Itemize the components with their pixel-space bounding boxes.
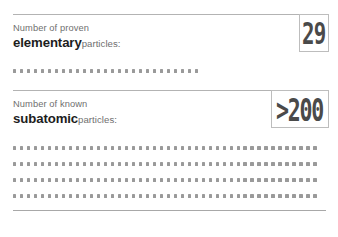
dot: [306, 178, 309, 181]
dot: [55, 178, 58, 181]
dot: [62, 162, 65, 165]
dot: [104, 146, 107, 149]
dot: [264, 178, 267, 181]
dot: [118, 146, 121, 149]
dot: [167, 194, 170, 197]
dot: [62, 69, 65, 72]
dot: [271, 162, 274, 165]
dot: [76, 146, 79, 149]
dot: [292, 194, 295, 197]
value-subatomic: >200: [276, 93, 323, 125]
dot: [139, 162, 142, 165]
dot: [306, 146, 309, 149]
dot: [62, 146, 65, 149]
dot: [76, 69, 79, 72]
dot: [202, 178, 205, 181]
dot: [34, 162, 37, 165]
dot: [62, 194, 65, 197]
dot: [55, 69, 58, 72]
dot: [132, 178, 135, 181]
dot: [41, 162, 44, 165]
dot: [195, 162, 198, 165]
dot: [181, 194, 184, 197]
dot: [83, 69, 86, 72]
dot: [118, 162, 121, 165]
dot: [146, 194, 149, 197]
dot: [209, 194, 212, 197]
value-elementary: 29: [302, 18, 325, 49]
dot: [153, 178, 156, 181]
dot: [153, 194, 156, 197]
dot: [83, 162, 86, 165]
dot: [153, 146, 156, 149]
dot: [313, 194, 316, 197]
dot: [153, 69, 156, 72]
dot: [139, 146, 142, 149]
dot: [132, 69, 135, 72]
dot: [62, 178, 65, 181]
dot: [48, 162, 51, 165]
dot: [230, 178, 233, 181]
dot: [104, 69, 107, 72]
section-subatomic-emphasis: subatomic: [13, 111, 78, 126]
dot: [69, 162, 72, 165]
dot: [97, 194, 100, 197]
dot: [27, 162, 30, 165]
dot: [41, 69, 44, 72]
dot: [195, 194, 198, 197]
dot: [125, 162, 128, 165]
dot: [118, 69, 121, 72]
dot: [132, 146, 135, 149]
dot: [230, 162, 233, 165]
dot-row-subatomic-1: [13, 146, 317, 150]
dot: [306, 194, 309, 197]
dot: [69, 146, 72, 149]
dot: [202, 194, 205, 197]
infographic-card: Number of proven elementaryparticles: 29…: [0, 0, 338, 237]
dot: [160, 69, 163, 72]
dot: [188, 146, 191, 149]
dot: [188, 69, 191, 72]
value-box-subatomic: >200: [271, 90, 329, 128]
dot: [20, 194, 23, 197]
dot: [97, 69, 100, 72]
dot: [174, 162, 177, 165]
dot: [41, 194, 44, 197]
dot: [306, 162, 309, 165]
dot: [104, 194, 107, 197]
dot: [13, 194, 16, 197]
section-elementary-tail: particles:: [82, 38, 121, 49]
dot: [111, 162, 114, 165]
dot: [139, 69, 142, 72]
dot: [285, 178, 288, 181]
dot: [285, 146, 288, 149]
dot: [257, 178, 260, 181]
dot: [69, 178, 72, 181]
dot: [216, 194, 219, 197]
dot: [174, 178, 177, 181]
dot: [292, 178, 295, 181]
dot: [27, 69, 30, 72]
dot: [167, 69, 170, 72]
dot: [48, 178, 51, 181]
dot: [55, 162, 58, 165]
dot: [132, 162, 135, 165]
dot: [223, 194, 226, 197]
dot: [216, 146, 219, 149]
dot: [250, 194, 253, 197]
dot: [237, 178, 240, 181]
dot: [299, 146, 302, 149]
dot: [104, 178, 107, 181]
dot: [55, 194, 58, 197]
dot: [237, 194, 240, 197]
dot: [76, 178, 79, 181]
dot: [13, 162, 16, 165]
dot: [243, 162, 246, 165]
dot: [174, 194, 177, 197]
dot: [97, 146, 100, 149]
dot: [195, 178, 198, 181]
dot: [292, 162, 295, 165]
dot: [104, 162, 107, 165]
section-divider-middle: [13, 90, 271, 91]
dot: [76, 162, 79, 165]
